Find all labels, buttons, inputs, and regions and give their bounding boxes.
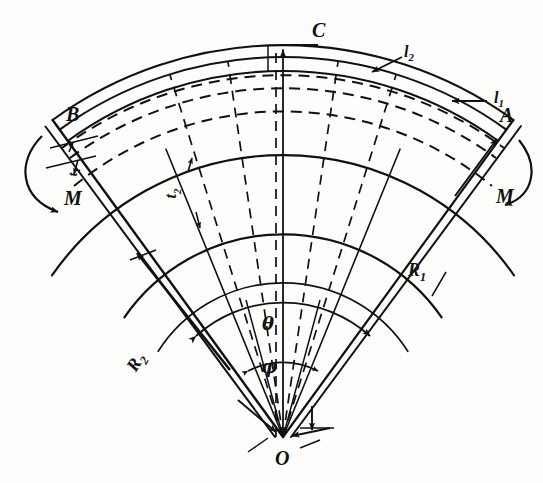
r1-leader: [432, 272, 446, 296]
radial-right-inner: [291, 126, 521, 437]
radial-dashed-right-inner: [283, 62, 338, 437]
diagram-canvas: [0, 0, 543, 483]
radial-dashed-left-inner: [228, 62, 283, 437]
radial-dashed-left: [170, 75, 283, 437]
label-radius-r1-base: R: [408, 260, 420, 280]
radial-dashed-right: [283, 75, 396, 437]
label-angle-theta: θ: [262, 315, 274, 333]
label-moment-left: M: [64, 188, 82, 208]
radial-right-outer: [283, 120, 513, 437]
radial-solid-left-mid: [166, 149, 283, 437]
radial-solid-right-mid: [283, 149, 400, 437]
label-radius-r1: R1: [408, 261, 426, 283]
solid-radial-edges: [46, 50, 522, 437]
label-thickness-t2-base: t: [162, 194, 179, 198]
label-thickness-t1: t1: [66, 168, 82, 176]
label-thickness-t1-base: t: [65, 173, 80, 177]
label-length-l1: l1: [494, 90, 504, 109]
label-point-b: B: [66, 104, 79, 124]
radial-left-outer: [53, 120, 283, 437]
label-length-l2-sub: 2: [408, 51, 413, 63]
label-thickness-t2-sub: 2: [171, 189, 183, 194]
label-length-l1-sub: 1: [498, 97, 503, 109]
label-radius-r1-sub: 1: [420, 270, 426, 284]
label-moment-right: M: [496, 186, 514, 206]
curved-beam-diagram: C B A O M M R1 R2 l1 l2 t1 t2 θ φ: [0, 0, 543, 483]
label-length-l2: l2: [404, 44, 414, 63]
label-point-c: C: [312, 20, 325, 40]
label-origin-o: O: [275, 448, 289, 468]
label-thickness-t1-sub: 1: [72, 168, 82, 172]
label-angle-phi: φ: [261, 358, 277, 376]
label-thickness-t2: t2: [163, 189, 182, 199]
